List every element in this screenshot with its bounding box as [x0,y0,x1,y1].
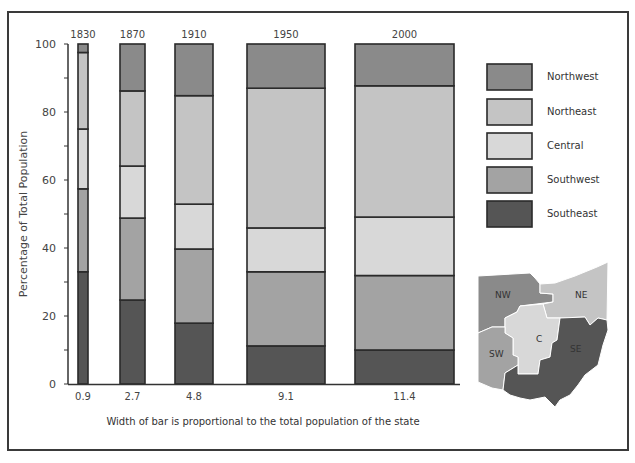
bar-segment-southwest [247,272,325,346]
bar-1910: 19104.8 [175,29,213,402]
bar-segment-central [78,129,88,189]
year-label: 1870 [120,29,145,40]
bar-segment-southeast [355,350,454,384]
bar-segment-southeast [120,300,145,384]
bar-segment-southeast [247,346,325,384]
bar-segment-northwest [78,44,88,53]
stacked-bar-chart: 020406080100 Percentage of Total Populat… [0,0,635,463]
bar-segment-northeast [355,86,454,217]
bar-segment-southwest [120,218,145,300]
legend-label: Northwest [547,71,599,82]
y-axis: 020406080100 [35,38,68,391]
legend-swatch [487,64,532,90]
bar-segment-northwest [175,44,213,96]
y-tick-label: 100 [35,38,56,51]
map-region-ne [540,262,608,325]
legend-item-northeast: Northeast [487,99,596,125]
y-tick-label: 0 [49,378,56,391]
legend-swatch [487,133,532,159]
legend-item-southwest: Southwest [487,167,600,193]
legend-label: Central [547,140,583,151]
legend-item-southeast: Southeast [487,201,598,227]
year-label: 1830 [70,29,95,40]
bar-segment-northeast [247,88,325,228]
bars: 18300.918702.719104.819509.1200011.4 [70,29,454,402]
legend-label: Southwest [547,174,600,185]
legend-label: Southeast [547,208,598,219]
bar-segment-southwest [175,249,213,323]
bar-segment-central [247,228,325,272]
bar-segment-southwest [78,189,88,272]
legend-item-northwest: Northwest [487,64,599,90]
bar-2000: 200011.4 [355,29,454,402]
population-label: 9.1 [278,391,294,402]
legend-item-central: Central [487,133,583,159]
bar-1870: 18702.7 [120,29,145,402]
bar-segment-northeast [78,53,88,130]
map-label-c: C [536,334,542,344]
bar-segment-northeast [175,96,213,204]
legend-label: Northeast [547,106,596,117]
bar-segment-northwest [355,44,454,86]
population-label: 11.4 [393,391,415,402]
ohio-region-map: NW NE C SW SE [478,262,608,407]
bar-segment-southeast [175,323,213,384]
y-axis-label: Percentage of Total Population [17,131,30,297]
map-label-se: SE [570,344,582,354]
legend-swatch [487,167,532,193]
map-label-nw: NW [495,290,511,300]
bar-1830: 18300.9 [70,29,95,402]
y-tick-label: 20 [42,310,56,323]
bar-segment-southwest [355,276,454,350]
year-label: 1950 [273,29,298,40]
bar-segment-central [120,166,145,218]
bar-segment-northwest [247,44,325,88]
legend-swatch [487,201,532,227]
map-label-ne: NE [575,290,588,300]
y-tick-label: 80 [42,106,56,119]
year-label: 2000 [392,29,417,40]
chart-caption: Width of bar is proportional to the tota… [106,416,419,427]
bar-1950: 19509.1 [247,29,325,402]
legend: NorthwestNortheastCentralSouthwestSouthe… [487,64,600,227]
population-label: 4.8 [186,391,202,402]
population-label: 2.7 [125,391,141,402]
map-label-sw: SW [489,349,504,359]
bar-segment-central [175,204,213,249]
year-label: 1910 [181,29,206,40]
y-tick-label: 40 [42,242,56,255]
bar-segment-central [355,217,454,275]
bar-segment-northwest [120,44,145,91]
y-tick-label: 60 [42,174,56,187]
bar-segment-southeast [78,272,88,384]
bar-segment-northeast [120,91,145,166]
population-label: 0.9 [75,391,91,402]
legend-swatch [487,99,532,125]
